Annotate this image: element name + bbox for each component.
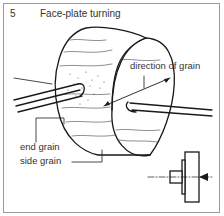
workpiece-right-face [112,38,175,156]
label-direction-of-grain: direction of grain [130,60,200,71]
label-side-grain: side grain [20,155,61,166]
left-gouge-tool [14,84,82,112]
face-plate-detail [148,152,214,202]
label-end-grain: end grain [20,141,60,152]
face-plate-turning-illustration [0,0,224,216]
